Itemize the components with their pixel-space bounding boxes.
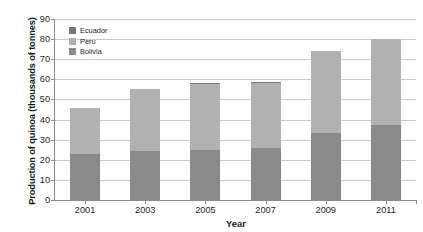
quinoa-production-chart: Production of quinoa (thousands of tonne… (0, 0, 423, 232)
x-tick-mark-2011 (386, 200, 387, 204)
x-tick-label-2001: 2001 (60, 205, 110, 215)
gridline-30 (55, 140, 416, 141)
legend-item-peru[interactable]: Peru (69, 37, 108, 46)
bar-segment-ecuador-2007[interactable] (251, 82, 281, 83)
bar-group-2009[interactable] (311, 19, 341, 200)
x-tick-mark-2005 (205, 200, 206, 204)
y-tick-label-50: 50 (24, 94, 50, 104)
bar-segment-bolivia-2009[interactable] (311, 133, 341, 200)
x-tick-mark-2001 (85, 200, 86, 204)
y-tick-label-80: 80 (24, 34, 50, 44)
x-axis-title: Year (55, 218, 417, 229)
x-tick-mark-2003 (145, 200, 146, 204)
bar-segment-bolivia-2011[interactable] (371, 125, 401, 200)
y-tick-label-60: 60 (24, 74, 50, 84)
legend-swatch-bolivia-icon (69, 48, 76, 55)
x-tick-label-2007: 2007 (241, 205, 291, 215)
legend-item-bolivia[interactable]: Bolivia (69, 47, 108, 56)
legend-swatch-ecuador-icon (69, 27, 76, 34)
gridline-20 (55, 160, 416, 161)
y-tick-label-70: 70 (24, 54, 50, 64)
legend-label-ecuador: Ecuador (80, 26, 108, 35)
bar-segment-peru-2011[interactable] (371, 39, 401, 124)
gridline-70 (55, 59, 416, 60)
plot-area (55, 19, 416, 200)
bar-group-2007[interactable] (251, 19, 281, 200)
bar-segment-peru-2009[interactable] (311, 51, 341, 132)
y-tick-label-20: 20 (24, 155, 50, 165)
gridline-60 (55, 79, 416, 80)
bar-group-2003[interactable] (130, 19, 160, 200)
legend-item-ecuador[interactable]: Ecuador (69, 26, 108, 35)
x-tick-mark-end (416, 200, 417, 204)
x-tick-label-2005: 2005 (180, 205, 230, 215)
bar-segment-peru-2003[interactable] (130, 89, 160, 150)
x-axis-line (55, 200, 417, 201)
bar-group-2005[interactable] (190, 19, 220, 200)
legend-label-peru: Peru (80, 37, 96, 46)
y-tick-label-40: 40 (24, 115, 50, 125)
x-tick-mark-2007 (266, 200, 267, 204)
bar-segment-peru-2001[interactable] (70, 108, 100, 154)
legend-label-bolivia: Bolivia (80, 47, 102, 56)
plot-background (55, 19, 416, 200)
x-tick-label-2003: 2003 (120, 205, 170, 215)
bar-segment-bolivia-2005[interactable] (190, 150, 220, 200)
bar-group-2011[interactable] (371, 19, 401, 200)
gridline-50 (55, 99, 416, 100)
gridline-10 (55, 180, 416, 181)
gridline-80 (55, 39, 416, 40)
y-tick-label-10: 10 (24, 175, 50, 185)
gridline-40 (55, 120, 416, 121)
y-tick-label-30: 30 (24, 135, 50, 145)
bar-segment-ecuador-2005[interactable] (190, 83, 220, 84)
bar-segment-bolivia-2003[interactable] (130, 151, 160, 200)
gridline-90 (55, 19, 416, 20)
x-tick-label-2009: 2009 (301, 205, 351, 215)
bar-segment-peru-2005[interactable] (190, 84, 220, 149)
bar-segment-bolivia-2001[interactable] (70, 154, 100, 200)
y-tick-label-90: 90 (24, 14, 50, 24)
bar-segment-peru-2007[interactable] (251, 83, 281, 147)
y-tick-label-0: 0 (24, 195, 50, 205)
chart-legend: EcuadorPeruBolivia (69, 26, 108, 56)
bar-segment-bolivia-2007[interactable] (251, 148, 281, 200)
x-tick-label-2011: 2011 (361, 205, 411, 215)
x-tick-mark-2009 (326, 200, 327, 204)
legend-swatch-peru-icon (69, 38, 76, 45)
